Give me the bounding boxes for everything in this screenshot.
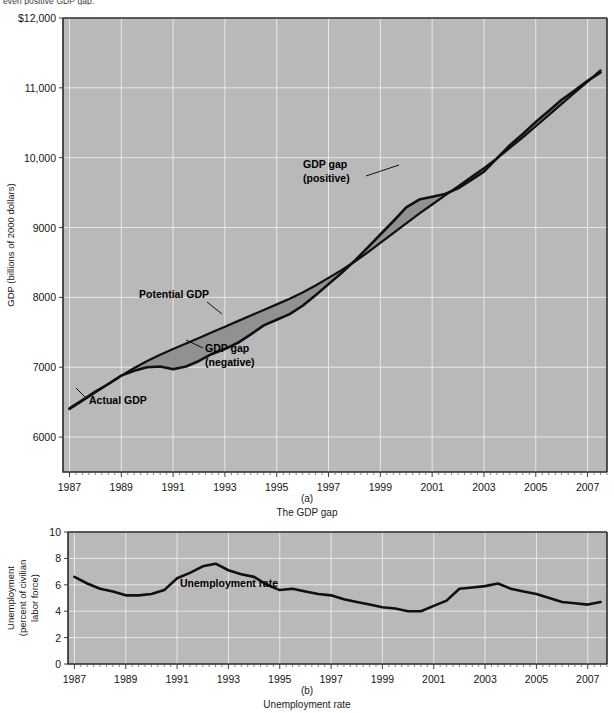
y-tick-label: 11,000: [25, 82, 56, 94]
panel-b-y-axis-label-line2: (percent of civilian: [17, 560, 28, 637]
y-tick-label: $12,000: [18, 12, 56, 24]
x-tick-label: 2007: [576, 673, 600, 685]
x-tick-label: 2007: [576, 481, 600, 493]
x-tick-label: 1993: [217, 673, 241, 685]
panel-b-caption-title: Unemployment rate: [263, 699, 351, 710]
annotation-unemployment-rate: Unemployment rate: [180, 577, 278, 589]
x-tick-label: 1989: [114, 673, 138, 685]
x-tick-label: 1999: [371, 673, 395, 685]
annotation-gap-negative-sub: (negative): [205, 356, 255, 368]
unemployment-rate-chart: 0246810198719891991199319951997199920012…: [0, 513, 614, 713]
x-tick-label: 1999: [369, 481, 393, 493]
y-tick-label: 0: [55, 658, 61, 670]
y-tick-label: 7000: [33, 361, 57, 373]
annotation-gap-positive-sub: (positive): [303, 172, 350, 184]
x-tick-label: 2001: [422, 673, 446, 685]
x-tick-label: 1991: [165, 673, 189, 685]
y-tick-label: 6000: [33, 431, 57, 443]
y-tick-label: 6: [55, 579, 61, 591]
x-tick-label: 2003: [473, 673, 497, 685]
panel-a-y-axis-label: GDP (billions of 2000 dollars): [5, 183, 16, 306]
y-tick-label: 10,000: [24, 152, 56, 164]
panel-b-y-axis-label-line1: Unemployment: [5, 566, 16, 630]
x-tick-label: 2001: [420, 481, 444, 493]
y-tick-label: 8: [55, 552, 61, 564]
x-tick-label: 1989: [110, 481, 134, 493]
x-tick-label: 1993: [213, 481, 237, 493]
y-tick-label: 9000: [33, 222, 57, 234]
annotation-gap-positive: GDP gap: [303, 158, 347, 170]
panel-a-caption-letter: (a): [301, 493, 313, 504]
x-tick-label: 1987: [63, 673, 87, 685]
annotation-potential-gdp: Potential GDP: [139, 288, 209, 300]
x-tick-label: 2005: [524, 481, 548, 493]
x-tick-label: 1995: [268, 673, 292, 685]
y-tick-label: 4: [55, 605, 61, 617]
x-tick-label: 2003: [472, 481, 496, 493]
x-tick-label: 1997: [317, 481, 341, 493]
panel-b-y-axis-label-line3: labor force): [29, 574, 40, 622]
x-tick-label: 2005: [525, 673, 549, 685]
gdp-gap-chart: $12,00011,00010,000900080007000600019871…: [0, 0, 614, 520]
annotation-actual-gdp: Actual GDP: [89, 394, 147, 406]
y-tick-label: 8000: [33, 291, 57, 303]
annotation-gap-negative: GDP gap: [205, 342, 249, 354]
x-tick-label: 1987: [58, 481, 82, 493]
panel-b-caption-letter: (b): [301, 685, 313, 696]
x-tick-label: 1997: [319, 673, 343, 685]
x-tick-label: 1995: [265, 481, 289, 493]
y-tick-label: 2: [55, 632, 61, 644]
x-tick-label: 1991: [161, 481, 185, 493]
y-tick-label: 10: [49, 526, 61, 538]
